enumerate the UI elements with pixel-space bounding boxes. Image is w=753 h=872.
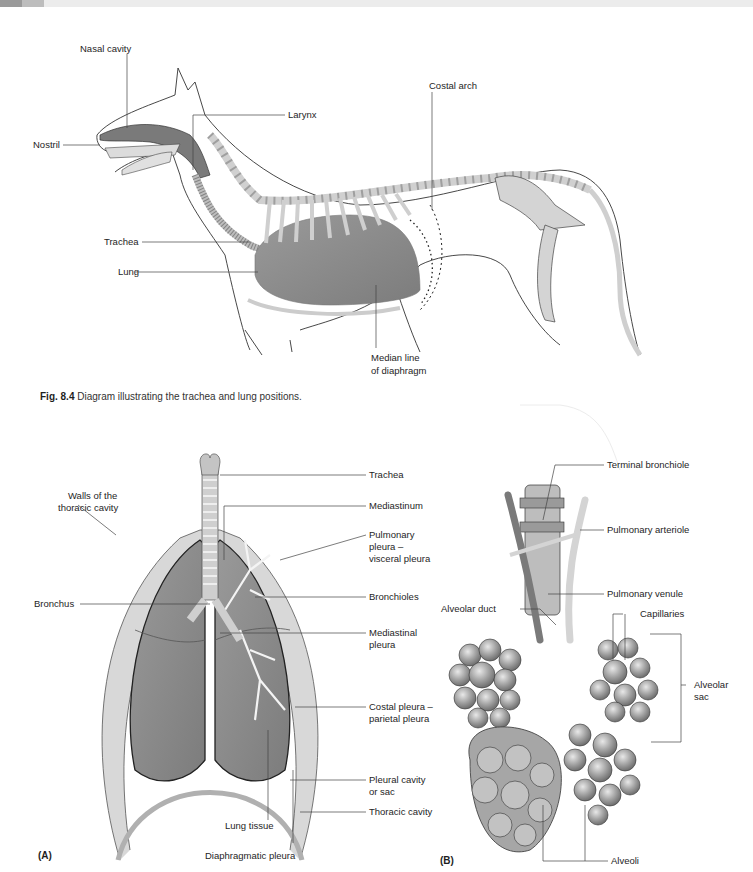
thorax-illustration (102, 454, 318, 860)
figure-caption: Fig. 8.4 Diagram illustrating the trache… (40, 391, 302, 402)
label-mediastinal-2: pleura (369, 639, 395, 651)
label-pleural-cavity-2: or sac (369, 786, 395, 798)
label-walls-1: Walls of the (68, 490, 117, 502)
label-pulmonary-pleura-3: visceral pleura (369, 553, 430, 565)
label-capillaries: Capillaries (640, 608, 684, 620)
label-walls-2: thoracic cavity (58, 502, 118, 514)
figure-caption-text: Diagram illustrating the trachea and lun… (77, 391, 302, 402)
label-pulmonary-pleura-1: Pulmonary (369, 529, 414, 541)
label-mediastinum: Mediastinum (369, 500, 423, 512)
label-diaphragmatic-pleura: Diaphragmatic pleura (205, 850, 295, 862)
label-bronchus: Bronchus (34, 598, 74, 610)
leader-lines-top (63, 54, 432, 348)
label-lung: Lung (118, 266, 139, 278)
dog-illustration (97, 68, 640, 355)
label-lung-tissue: Lung tissue (225, 820, 274, 832)
label-pleural-cavity-1: Pleural cavity (369, 774, 426, 786)
label-nostril: Nostril (33, 139, 60, 151)
anatomy-illustrations (0, 0, 753, 872)
label-pulmonary-pleura-2: pleura – (369, 541, 403, 553)
label-alveolar-sac-1: Alveolar (694, 679, 728, 691)
label-costal-pleura-2: parietal pleura (369, 713, 429, 725)
label-median-line: Median line (371, 352, 420, 364)
label-pulmonary-arteriole: Pulmonary arteriole (607, 524, 689, 536)
label-larynx: Larynx (288, 109, 317, 121)
panel-label-a: (A) (38, 850, 52, 861)
label-terminal-bronchiole: Terminal bronchiole (607, 459, 689, 471)
figure-number: Fig. 8.4 (40, 391, 74, 402)
label-trachea-top: Trachea (104, 236, 139, 248)
label-costal-pleura-1: Costal pleura – (369, 701, 433, 713)
label-alveoli: Alveoli (611, 855, 639, 867)
label-of-diaphragm: of diaphragm (371, 365, 426, 377)
label-mediastinal-1: Mediastinal (369, 627, 417, 639)
label-costal-arch: Costal arch (429, 80, 477, 92)
label-pulmonary-venule: Pulmonary venule (607, 588, 683, 600)
panel-label-b: (B) (440, 855, 454, 866)
label-alveolar-duct: Alveolar duct (441, 603, 496, 615)
label-trachea-a: Trachea (369, 469, 404, 481)
label-bronchioles: Bronchioles (369, 591, 419, 603)
label-nasal-cavity: Nasal cavity (80, 43, 131, 55)
label-alveolar-sac-2: sac (694, 691, 709, 703)
label-thoracic-cavity: Thoracic cavity (369, 806, 432, 818)
